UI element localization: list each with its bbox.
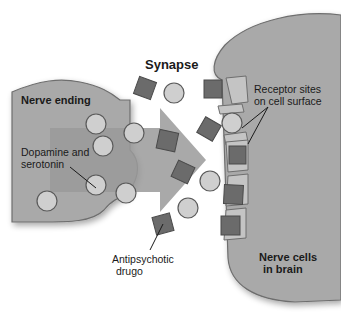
neurotransmitters-label-line1: Dopamine and: [21, 146, 89, 158]
receptor-sites-label-line2: on cell surface: [254, 95, 322, 107]
nerve-ending-label: Nerve ending: [21, 94, 91, 106]
receptor-sites-label-line1: Receptor sites: [254, 83, 321, 95]
nerve-cells-label-line1: Nerve cells: [259, 251, 317, 263]
nerve-cells-label-line2: in brain: [263, 263, 303, 275]
synapse-title: Synapse: [145, 57, 198, 72]
neurotransmitters-label-line2: serotonin: [21, 158, 64, 170]
antipsychotic-drugs-label-line2: drugo: [116, 265, 143, 277]
antipsychotic-drugs-label-line1: Antipsychotic: [112, 253, 174, 265]
synapse-diagram: Synapse Nerve ending Dopamine and seroto…: [0, 0, 341, 317]
